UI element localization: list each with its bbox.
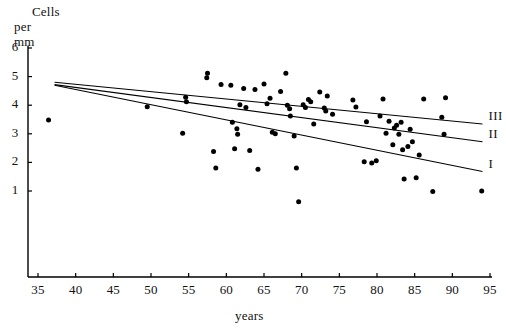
data-point [252,87,257,92]
data-point [353,104,358,109]
data-point [243,105,248,110]
x-tick-label: 45 [99,282,127,298]
data-point [234,126,239,131]
data-point [405,144,410,149]
data-point [479,189,484,194]
data-point [323,108,328,113]
data-point [265,101,270,106]
data-point [410,139,415,144]
data-point [317,90,322,95]
data-point [390,142,395,147]
data-point [430,189,435,194]
data-point [205,71,210,76]
data-point [241,86,246,91]
data-point [180,131,185,136]
data-point [292,134,297,139]
data-point [232,146,237,151]
data-point [330,112,335,117]
line-label-ii: II [488,126,498,142]
data-point [219,82,224,87]
data-point [311,122,316,127]
data-point [374,158,379,163]
data-point [213,166,218,171]
y-tick-label: 4 [8,96,22,112]
x-tick-label: 40 [62,282,90,298]
data-point [400,147,405,152]
data-point [230,120,235,125]
x-tick-label: 75 [325,282,353,298]
data-point [228,83,233,88]
data-point [184,99,189,104]
data-point [294,166,299,171]
data-point [414,175,419,180]
x-tick-label: 35 [24,282,52,298]
y-tick-label: 2 [8,153,22,169]
data-point [402,176,407,181]
data-point [247,148,252,153]
data-point [288,114,293,119]
data-point [350,98,355,103]
data-point [46,118,51,123]
data-point [283,71,288,76]
x-tick-label: 85 [401,282,429,298]
data-point [408,127,413,132]
x-tick-label: 80 [363,282,391,298]
data-point [273,131,278,136]
data-point [378,114,383,119]
x-axis-title: years [235,308,263,324]
data-point [396,132,401,137]
data-point [362,159,367,164]
data-point [287,106,292,111]
y-tick-label: 1 [8,182,22,198]
x-tick-label: 90 [438,282,466,298]
data-point [381,96,386,101]
x-tick-label: 95 [476,282,504,298]
line-label-i: I [488,156,493,172]
data-point [421,96,426,101]
data-point [183,95,188,100]
data-point [268,96,273,101]
data-point [278,89,283,94]
data-point [387,119,392,124]
data-point [442,132,447,137]
data-point [394,123,399,128]
data-point [364,119,369,124]
data-point [145,104,150,109]
data-point [439,115,444,120]
data-point [384,131,389,136]
data-point [255,167,260,172]
data-point [237,102,242,107]
data-point [443,95,448,100]
data-point [211,149,216,154]
data-point [399,120,404,125]
chart-figure: Cells per mm 35404550556065707580859095 … [0,0,506,334]
line-label-iii: III [488,108,503,124]
regression-line-ii [55,85,483,142]
data-point [417,152,422,157]
x-tick-label: 65 [250,282,278,298]
x-tick-label: 60 [212,282,240,298]
x-tick-label: 70 [288,282,316,298]
data-point [235,132,240,137]
x-tick-label: 55 [175,282,203,298]
data-point [204,75,209,80]
data-point [369,160,374,165]
y-tick-label: 3 [8,125,22,141]
x-tick-label: 50 [137,282,165,298]
y-tick-label: 6 [8,39,22,55]
data-point [303,105,308,110]
data-point [296,199,301,204]
data-point [262,82,267,87]
data-point [325,94,330,99]
data-point [308,99,313,104]
y-tick-label: 5 [8,68,22,84]
